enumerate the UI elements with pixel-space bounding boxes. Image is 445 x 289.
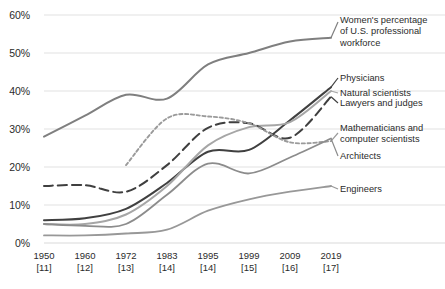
series-leader-line <box>331 78 338 87</box>
series-label-mathematicians-computer-scientists: Mathematicians and computer scientists <box>340 123 423 146</box>
series-lines <box>44 38 331 236</box>
series-label-physicians: Physicians <box>340 73 384 84</box>
series-label-womens-percentage: Women's percentage of U.S. professional … <box>340 15 427 49</box>
series-label-engineers: Engineers <box>340 184 382 195</box>
series-line <box>44 139 331 227</box>
series-line <box>44 87 331 220</box>
series-leader-line <box>331 186 338 189</box>
series-label-architects: Architects <box>340 151 381 162</box>
series-label-lawyers-and-judges: Lawyers and judges <box>340 98 423 109</box>
series-leader-line <box>331 139 338 157</box>
series-leader-line <box>331 22 338 38</box>
series-line <box>126 114 331 165</box>
legend-line-stubs <box>331 22 338 189</box>
series-leader-line <box>331 97 338 103</box>
series-line <box>44 97 331 193</box>
line-chart: 60% 50% 40% 30% 20% 10% 0% 1950 [11] 196… <box>0 0 445 289</box>
series-line <box>44 186 331 236</box>
